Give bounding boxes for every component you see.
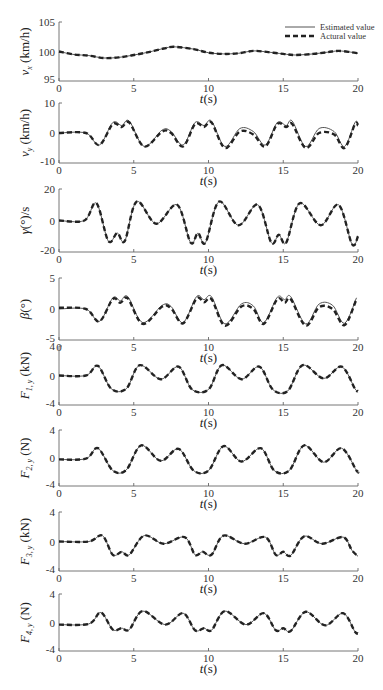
y-tick-label: -4 — [46, 643, 56, 655]
estimated-line — [59, 365, 358, 393]
y-tick-label: 105 — [39, 16, 56, 28]
y-axis-label: vx (km/h) — [17, 28, 34, 76]
x-tick-label: 0 — [56, 487, 62, 499]
y-tick-label: -4 — [46, 397, 56, 409]
x-axis-label: t(s) — [200, 173, 217, 188]
actual-line — [59, 611, 358, 634]
legend-actual-label: Actural value — [320, 31, 366, 41]
subplot-5: -40405101520t(s)F1, y (kN) — [17, 340, 364, 430]
subplot-4: -50505101520t(s)β(°) — [17, 272, 364, 365]
x-tick-label: 20 — [353, 341, 365, 353]
y-tick-label: 0 — [50, 215, 56, 227]
x-tick-label: 0 — [56, 164, 62, 176]
x-tick-label: 5 — [131, 164, 137, 176]
y-tick-label: 4 — [50, 340, 56, 352]
subplot-7: -40405101520t(s)F3, y (kN) — [17, 506, 364, 596]
x-tick-label: 5 — [131, 82, 137, 94]
x-tick-label: 20 — [353, 406, 365, 418]
y-tick-label: 4 — [50, 424, 56, 436]
estimated-line — [59, 445, 358, 473]
y-tick-label: 0 — [50, 617, 56, 629]
x-tick-label: 5 — [131, 572, 137, 584]
estimated-line — [59, 47, 358, 58]
y-tick-label: 0 — [50, 370, 56, 382]
x-tick-label: 5 — [131, 487, 137, 499]
y-tick-label: 0 — [50, 536, 56, 548]
y-tick-label: 95 — [44, 73, 56, 85]
axes — [59, 189, 358, 252]
figure: 9510010505101520t(s)vx (km/h)-1001005101… — [0, 0, 383, 690]
actual-line — [59, 535, 358, 556]
x-tick-label: 5 — [131, 341, 137, 353]
x-axis-label: t(s) — [200, 91, 217, 106]
x-tick-label: 0 — [56, 406, 62, 418]
y-tick-label: -20 — [40, 244, 55, 256]
x-axis-label: t(s) — [200, 415, 217, 430]
x-axis-label: t(s) — [200, 262, 217, 277]
x-axis-label: t(s) — [200, 496, 217, 511]
y-tick-label: 0 — [50, 303, 56, 315]
axes — [59, 278, 358, 340]
subplot-group: 9510010505101520t(s)vx (km/h)-1001005101… — [17, 16, 364, 676]
y-tick-label: -4 — [46, 563, 56, 575]
x-tick-label: 0 — [56, 253, 62, 265]
subplot-1: 9510010505101520t(s)vx (km/h) — [17, 16, 364, 106]
x-tick-label: 20 — [353, 487, 365, 499]
axes — [59, 512, 358, 571]
x-axis-label: t(s) — [200, 350, 217, 365]
actual-line — [59, 445, 358, 473]
x-tick-label: 20 — [353, 572, 365, 584]
y-tick-label: 10 — [44, 97, 56, 109]
x-tick-label: 20 — [353, 82, 365, 94]
subplot-3: -2002005101520t(s)γ(°)/s — [17, 183, 364, 277]
x-tick-label: 15 — [278, 341, 290, 353]
axes — [59, 430, 358, 486]
x-tick-label: 15 — [278, 82, 290, 94]
y-axis-label: F3, y (kN) — [17, 518, 34, 566]
actual-line — [59, 122, 358, 149]
x-tick-label: 15 — [278, 572, 290, 584]
y-axis-label: F2, y (N) — [17, 438, 34, 480]
estimated-line — [59, 201, 358, 245]
x-tick-label: 15 — [278, 253, 290, 265]
y-tick-label: -10 — [40, 155, 55, 167]
x-tick-label: 20 — [353, 652, 365, 664]
x-tick-label: 0 — [56, 82, 62, 94]
x-tick-label: 5 — [131, 406, 137, 418]
actual-line — [59, 297, 357, 325]
x-tick-label: 0 — [56, 572, 62, 584]
y-tick-label: 4 — [50, 506, 56, 518]
axes — [59, 103, 358, 163]
x-axis-label: t(s) — [200, 581, 217, 596]
x-tick-label: 5 — [131, 253, 137, 265]
actual-line — [59, 201, 358, 245]
estimated-line — [59, 120, 358, 147]
x-tick-label: 15 — [278, 487, 290, 499]
y-axis-label: β(°) — [17, 299, 32, 320]
axes — [59, 22, 358, 81]
y-tick-label: 4 — [50, 588, 56, 600]
x-tick-label: 15 — [278, 164, 290, 176]
x-tick-label: 15 — [278, 406, 290, 418]
x-axis-label: t(s) — [200, 661, 217, 676]
x-tick-label: 20 — [353, 164, 365, 176]
y-tick-label: 20 — [44, 183, 56, 195]
y-axis-label: vy (km/h) — [17, 109, 34, 157]
y-tick-label: 0 — [50, 127, 56, 139]
y-tick-label: 5 — [50, 272, 56, 284]
subplot-8: -40405101520t(s)F4, y (N) — [17, 588, 364, 676]
subplot-6: -40405101520t(s)F2, y (N) — [17, 424, 364, 511]
x-tick-label: 15 — [278, 652, 290, 664]
y-axis-label: γ(°)/s — [17, 207, 32, 235]
y-tick-label: 100 — [39, 46, 56, 58]
legend: Estimated value Actural value — [285, 22, 375, 41]
y-axis-label: F4, y (N) — [17, 602, 34, 644]
y-tick-label: 0 — [50, 452, 56, 464]
y-axis-label: F1, y (kN) — [17, 352, 34, 400]
x-tick-label: 0 — [56, 652, 62, 664]
subplot-2: -1001005101520t(s)vy (km/h) — [17, 97, 364, 188]
x-tick-label: 5 — [131, 652, 137, 664]
axes — [59, 594, 358, 651]
x-tick-label: 20 — [353, 253, 365, 265]
y-tick-label: -4 — [46, 478, 56, 490]
